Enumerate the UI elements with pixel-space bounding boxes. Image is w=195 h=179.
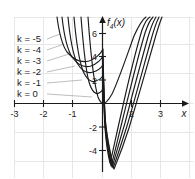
y-tick-label-neg4: -4 [89, 146, 97, 156]
y-axis-label-tail: (x) [113, 17, 125, 28]
y-tick-label-2: 2 [92, 76, 97, 86]
series-label-k-neg3: k = -3 [17, 55, 41, 66]
series-label-k-neg1: k = -1 [17, 77, 41, 88]
x-tick-label-2: 2 [129, 109, 134, 119]
x-tick-label-neg1: -1 [68, 109, 76, 119]
x-axis-label: x [181, 108, 188, 119]
x-tick-label-neg2: -2 [39, 109, 47, 119]
series-label-k-neg5: k = -5 [17, 33, 41, 44]
y-tick-label-6: 6 [92, 29, 97, 39]
series-label-k-0: k = 0 [17, 88, 38, 99]
x-tick-label-neg3: -3 [10, 109, 18, 119]
series-label-k-neg2: k = -2 [17, 66, 41, 77]
chart-svg: -3 -2 -1 2 3 6 4 2 -2 -4 f4(x) x k = -5 … [0, 0, 195, 179]
y-axis-label: f4(x) [107, 17, 125, 30]
series-label-k-neg4: k = -4 [17, 44, 41, 55]
y-tick-label-neg2: -2 [89, 123, 97, 133]
y-tick-label-4: 4 [92, 52, 97, 62]
x-tick-label-3: 3 [158, 109, 163, 119]
chart-figure: -3 -2 -1 2 3 6 4 2 -2 -4 f4(x) x k = -5 … [0, 0, 195, 179]
